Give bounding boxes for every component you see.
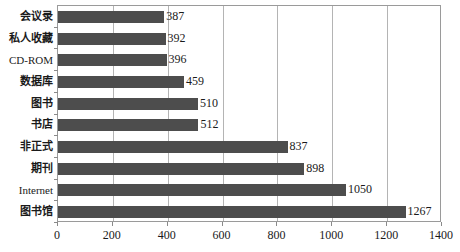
plot-area xyxy=(57,5,441,222)
bar-value-label: 1050 xyxy=(348,183,372,195)
y-axis-label: 图书 xyxy=(0,98,53,110)
y-axis-label: 私人收藏 xyxy=(0,33,53,45)
y-axis-label: 期刊 xyxy=(0,163,53,175)
x-axis-tick xyxy=(222,222,223,226)
x-axis-tick xyxy=(386,222,387,226)
bar xyxy=(58,54,167,66)
x-axis-tick xyxy=(441,222,442,226)
y-axis-tick xyxy=(54,114,58,115)
x-axis-tick xyxy=(112,222,113,226)
y-axis-label: 书店 xyxy=(0,119,53,131)
bar xyxy=(58,11,164,23)
bar xyxy=(58,33,166,45)
bar xyxy=(58,184,346,196)
bar-value-label: 837 xyxy=(290,140,308,152)
y-axis-label: Internet xyxy=(0,184,53,196)
x-axis-tick-label: 200 xyxy=(103,228,121,243)
x-axis-tick xyxy=(57,222,58,226)
bar-value-label: 1267 xyxy=(408,205,432,217)
y-axis-tick xyxy=(54,179,58,180)
gridline-1200 xyxy=(387,6,388,221)
bar xyxy=(58,163,304,175)
y-axis-tick xyxy=(54,157,58,158)
y-axis-label: 非正式 xyxy=(0,141,53,153)
x-axis-tick xyxy=(331,222,332,226)
y-axis-label: 会议录 xyxy=(0,11,53,23)
bar xyxy=(58,98,198,110)
y-axis-tick xyxy=(54,92,58,93)
bar-value-label: 510 xyxy=(200,97,218,109)
y-axis-label: 图书馆 xyxy=(0,206,53,218)
y-axis-label: CD-ROM xyxy=(0,54,53,66)
bar xyxy=(58,141,288,153)
x-axis-tick-label: 800 xyxy=(267,228,285,243)
y-axis-tick xyxy=(54,70,58,71)
x-axis-tick-label: 1400 xyxy=(429,228,453,243)
bar-value-label: 459 xyxy=(186,75,204,87)
bar-chart: 会议录私人收藏CD-ROM数据库图书书店非正式期刊Internet图书馆 387… xyxy=(0,0,460,252)
x-axis-tick-label: 1200 xyxy=(374,228,398,243)
x-axis-tick xyxy=(167,222,168,226)
x-axis-tick-label: 600 xyxy=(213,228,231,243)
x-axis-tick xyxy=(276,222,277,226)
bar-value-label: 512 xyxy=(200,118,218,130)
x-axis-tick-label: 0 xyxy=(54,228,60,243)
x-axis-tick-label: 1000 xyxy=(319,228,343,243)
y-axis-tick xyxy=(54,200,58,201)
y-axis-label: 数据库 xyxy=(0,76,53,88)
y-axis-tick xyxy=(54,27,58,28)
bar-value-label: 387 xyxy=(166,10,184,22)
bar xyxy=(58,76,184,88)
bar-value-label: 396 xyxy=(169,53,187,65)
bar xyxy=(58,206,406,218)
x-axis-tick-label: 400 xyxy=(158,228,176,243)
bar xyxy=(58,119,198,131)
bar-value-label: 392 xyxy=(168,32,186,44)
bar-value-label: 898 xyxy=(306,162,324,174)
y-axis-tick xyxy=(54,135,58,136)
y-axis-tick xyxy=(54,48,58,49)
